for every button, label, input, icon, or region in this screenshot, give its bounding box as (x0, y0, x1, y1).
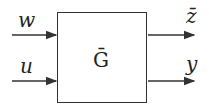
input-label-w: w (18, 10, 35, 30)
output-label-y: y (186, 54, 197, 74)
input-label-u: u (20, 56, 33, 76)
block-label: Ḡ (93, 50, 109, 70)
output-label-z: z̄ (186, 6, 197, 26)
